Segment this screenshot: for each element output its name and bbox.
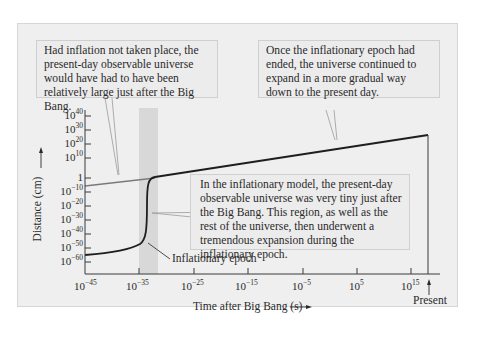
callout-pointer-no-inflation-2 (112, 98, 119, 175)
x-axis-title: Time after Big Bang (s) (193, 300, 302, 312)
y-tick-label: 10−60 (60, 255, 83, 267)
x-tick-label: 105 (349, 280, 364, 292)
y-tick-label: 1040 (65, 109, 84, 121)
x-tick-label: 10−15 (235, 280, 258, 292)
callout-after-inflation: Once the inflationary epoch had ended, t… (258, 40, 440, 98)
y-tick-label: 10−50 (60, 241, 83, 253)
inflationary-epoch-label: Inflationary epoch (172, 252, 257, 264)
callout-pointer-no-inflation (105, 98, 118, 175)
inflationary-epoch-band (139, 108, 158, 274)
x-tick-label: 1015 (401, 280, 420, 292)
present-label: Present (413, 294, 447, 306)
x-ticks (139, 268, 411, 274)
y-tick-label: 1030 (65, 123, 84, 135)
callout-inflationary-model: In the inflationary model, the present-d… (190, 174, 410, 250)
y-tick-label: 10−10 (60, 185, 83, 197)
callout-pointer-after-inflation (326, 110, 335, 140)
callout-after-inflation-text: Once the inflationary epoch had ended, t… (266, 44, 416, 99)
present-arrow-icon (427, 279, 431, 295)
x-tick-label: 10−5 (292, 280, 311, 292)
callout-pointer-after-inflation-2 (334, 110, 337, 140)
x-tick-label: 10−25 (181, 280, 204, 292)
x-tick-label: 10−45 (74, 280, 97, 292)
y-tick-label: 10−30 (60, 213, 83, 225)
callout-inflationary-model-text: In the inflationary model, the present-d… (200, 178, 402, 261)
callout-no-inflation: Had inflation not taken place, the prese… (36, 40, 218, 98)
y-ticks (85, 116, 91, 262)
x-tick-label: 10−35 (126, 280, 149, 292)
y-tick-label: 10−40 (60, 227, 83, 239)
y-tick-label: 1010 (65, 151, 84, 163)
y-tick-label: 10−20 (60, 199, 83, 211)
y-tick-label: 1020 (65, 137, 84, 149)
y-tick-label: 1 (78, 171, 84, 183)
y-axis-arrow-icon (39, 147, 43, 168)
y-axis-title: Distance (cm) (31, 177, 43, 242)
